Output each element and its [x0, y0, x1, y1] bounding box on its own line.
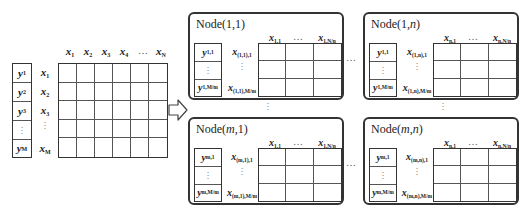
- y-cell-ellipsis: ···: [13, 121, 31, 140]
- node-col-ellipsis: …: [468, 31, 479, 42]
- node-y-vector: y1,1 ··· y1,M/m: [194, 43, 222, 97]
- node-row-ellipsis-top: …: [346, 52, 357, 63]
- node-title: Node(1,n): [371, 17, 420, 32]
- source-col-header: x1: [62, 46, 78, 58]
- node-title: Node(m,1): [196, 122, 248, 137]
- source-col-ellipsis: …: [138, 45, 149, 56]
- source-row-ellipsis: ···: [36, 121, 54, 130]
- node-y-cell: ym,1: [370, 149, 396, 167]
- hollow-right-arrow-icon: [168, 99, 188, 121]
- node-col-ellipsis: …: [293, 31, 304, 42]
- node-y-vector: ym,1 ··· ym,M/m: [369, 148, 397, 202]
- y-cell: y2: [13, 83, 31, 102]
- y-vector: y1 y2 y3 ··· yM: [12, 63, 32, 158]
- node-y-ellipsis: ···: [195, 62, 221, 80]
- source-col-header: x4: [116, 46, 132, 58]
- node-row-ellipsis-bottom: …: [346, 157, 357, 168]
- node-col-ellipsis-left: ···: [262, 102, 274, 111]
- node-row-label: x(1,1),1: [224, 47, 260, 59]
- node-row-label: x(m,1),M/m: [223, 188, 261, 200]
- node-y-ellipsis: ···: [370, 167, 396, 185]
- node-y-ellipsis: ···: [370, 62, 396, 80]
- node-grid: [433, 148, 517, 202]
- node-y-cell: y1,1: [370, 44, 396, 62]
- node-row-ellipsis: ···: [399, 167, 435, 176]
- node-row-ellipsis: ···: [224, 62, 260, 71]
- node-y-cell: y1,M/m: [195, 80, 221, 96]
- node-row-ellipsis: ···: [224, 167, 260, 176]
- node-y-cell: ym,M/m: [370, 185, 396, 201]
- node-m-n: Node(m,n) xn,1 … xn,N/n ym,1 ··· ym,M/m …: [363, 117, 519, 205]
- node-row-label: x(m,n),1: [399, 152, 435, 164]
- node-y-cell: y1,1: [195, 44, 221, 62]
- node-m-1: Node(m,1) x1,1 … x1,N/n ym,1 ··· ym,M/m …: [188, 117, 344, 205]
- node-row-label: x(1,n),M/m: [398, 83, 436, 95]
- node-grid: [258, 43, 342, 97]
- source-row-label: x2: [36, 86, 54, 98]
- node-y-vector: ym,1 ··· ym,M/m: [194, 148, 222, 202]
- source-row-label: x1: [36, 67, 54, 79]
- node-col-ellipsis-right: ···: [437, 102, 449, 111]
- node-y-cell: ym,1: [195, 149, 221, 167]
- source-col-header: x3: [98, 46, 114, 58]
- node-y-cell: ym,M/m: [195, 185, 221, 201]
- source-col-header: xN: [153, 46, 169, 58]
- node-row-label: x(1,1),M/m: [223, 83, 261, 95]
- node-title: Node(1,1): [196, 17, 245, 32]
- y-cell: y3: [13, 102, 31, 121]
- node-col-ellipsis: …: [468, 136, 479, 147]
- node-row-label: x(1,n),1: [399, 47, 435, 59]
- node-grid: [433, 43, 517, 97]
- node-row-label: x(m,n),M/m: [398, 188, 436, 200]
- node-row-label: x(m,1),1: [224, 152, 260, 164]
- node-1-n: Node(1,n) xn,1 … xn,N/n y1,1 ··· y1,M/m …: [363, 12, 519, 100]
- source-row-label: x3: [36, 105, 54, 117]
- node-y-vector: y1,1 ··· y1,M/m: [369, 43, 397, 97]
- node-title: Node(m,n): [371, 122, 423, 137]
- node-col-ellipsis: …: [293, 136, 304, 147]
- source-row-label: xM: [36, 143, 54, 155]
- node-grid: [258, 148, 342, 202]
- source-col-header: x2: [80, 46, 96, 58]
- node-y-cell: y1,M/m: [370, 80, 396, 96]
- node-1-1: Node(1,1) x1,1 … x1,N/n y1,1 ··· y1,M/m …: [188, 12, 344, 100]
- y-cell: y1: [13, 64, 31, 83]
- node-row-ellipsis: ···: [399, 62, 435, 71]
- source-grid: [58, 63, 168, 158]
- y-cell: yM: [13, 140, 31, 157]
- node-y-ellipsis: ···: [195, 167, 221, 185]
